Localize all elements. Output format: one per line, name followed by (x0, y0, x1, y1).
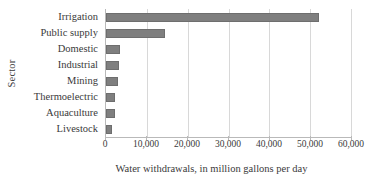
y-tick-label: Public supply (20, 25, 102, 41)
bar-row (106, 41, 351, 57)
y-tick-label: Mining (20, 73, 102, 89)
x-tick-label: 10,000 (133, 140, 159, 150)
x-tick-label: 30,000 (215, 140, 241, 150)
bar (106, 77, 118, 86)
bar-row (106, 73, 351, 89)
bar (106, 93, 115, 102)
y-tick-label: Aquaculture (20, 105, 102, 121)
x-tick-label: 60,000 (338, 140, 364, 150)
x-tick-label: 40,000 (256, 140, 282, 150)
bar-series (106, 9, 351, 137)
bar-row (106, 105, 351, 121)
bar (106, 61, 119, 70)
bar-row (106, 57, 351, 73)
y-tick-label: Domestic (20, 41, 102, 57)
bar-row (106, 25, 351, 41)
x-tick-label: 50,000 (297, 140, 323, 150)
y-tick-label: Thermoelectric (20, 89, 102, 105)
bar (106, 29, 165, 38)
x-axis-tick-labels: 010,00020,00030,00040,00050,00060,000 (105, 140, 351, 154)
x-axis-title-label: Water withdrawals, in million gallons pe… (116, 163, 308, 174)
bar (106, 125, 112, 134)
x-axis-title: Water withdrawals, in million gallons pe… (0, 163, 373, 174)
bar-chart: Sector IrrigationPublic supplyDomesticIn… (0, 0, 373, 187)
x-tick-label: 0 (103, 140, 108, 150)
plot-area (105, 9, 352, 138)
bar (106, 109, 115, 118)
bar (106, 13, 319, 22)
y-tick-label: Industrial (20, 57, 102, 73)
y-axis-title: Sector (0, 0, 22, 146)
y-axis-tick-labels: IrrigationPublic supplyDomesticIndustria… (20, 9, 102, 137)
y-tick-label: Livestock (20, 121, 102, 137)
x-tick-label: 20,000 (174, 140, 200, 150)
y-tick-label: Irrigation (20, 9, 102, 25)
bar-row (106, 121, 351, 137)
bar (106, 45, 120, 54)
y-axis-title-label: Sector (6, 59, 17, 87)
bar-row (106, 9, 351, 25)
bar-row (106, 89, 351, 105)
